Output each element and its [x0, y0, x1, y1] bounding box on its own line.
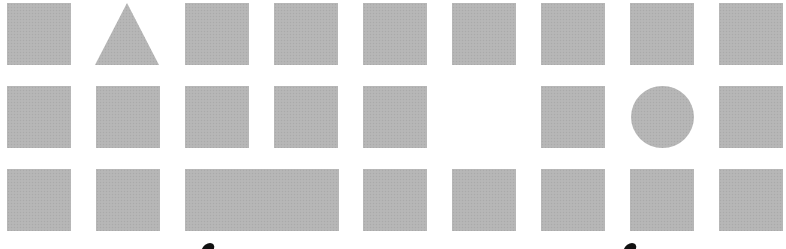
square-shape — [274, 86, 338, 148]
triangle-shape — [95, 3, 159, 65]
square-shape — [185, 3, 249, 65]
circle-shape — [631, 86, 694, 148]
partial-glyph — [202, 243, 216, 249]
square-shape — [541, 3, 605, 65]
square-shape — [185, 86, 249, 148]
square-shape — [363, 86, 427, 148]
square-shape — [719, 169, 783, 231]
square-shape — [7, 86, 71, 148]
square-shape — [274, 3, 338, 65]
square-shape — [7, 169, 71, 231]
square-shape — [363, 3, 427, 65]
square-shape — [96, 169, 160, 231]
square-shape — [630, 169, 694, 231]
square-shape — [363, 169, 427, 231]
square-shape — [7, 3, 71, 65]
square-shape — [541, 86, 605, 148]
square-shape — [630, 3, 694, 65]
square-shape — [719, 3, 783, 65]
wide-rectangle-shape — [185, 169, 339, 231]
square-shape — [452, 3, 516, 65]
square-shape — [96, 86, 160, 148]
square-shape — [719, 86, 783, 148]
square-shape — [452, 169, 516, 231]
partial-glyph — [624, 243, 638, 249]
square-shape — [541, 169, 605, 231]
